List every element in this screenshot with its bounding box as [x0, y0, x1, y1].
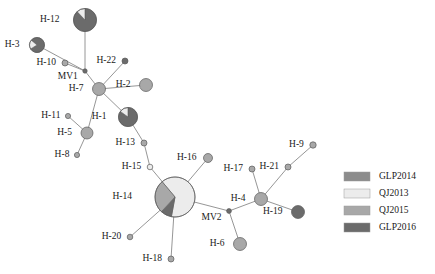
legend-swatch-qj2013 — [344, 189, 370, 198]
haplotype-node[interactable] — [255, 193, 268, 206]
node-disc — [140, 79, 153, 92]
haplotype-network-figure: H-12H-3H-10MV1H-22H-7H-2H-1H-11H-5H-8H-1… — [0, 0, 435, 274]
node-label-mv2: MV2 — [202, 212, 222, 222]
haplotype-node[interactable] — [74, 152, 79, 157]
node-disc — [234, 238, 247, 251]
haplotype-node[interactable] — [155, 177, 195, 217]
node-disc — [292, 206, 305, 219]
legend-swatch-glp2016 — [344, 223, 370, 232]
node-label-h-2: H-2 — [116, 79, 131, 89]
haplotype-node[interactable] — [140, 79, 153, 92]
haplotype-node[interactable] — [141, 140, 147, 146]
node-label-h-15: H-15 — [122, 161, 142, 171]
node-disc — [122, 58, 128, 64]
node-label-h-16: H-16 — [177, 152, 197, 162]
haplotype-node[interactable] — [65, 113, 70, 118]
node-label-h-7: H-7 — [69, 83, 84, 93]
node-disc — [65, 113, 70, 118]
haplotype-node[interactable] — [234, 238, 247, 251]
haplotype-node[interactable] — [122, 58, 128, 64]
haplotype-node[interactable] — [127, 234, 133, 240]
node-disc — [285, 164, 291, 170]
legend-swatch-glp2014 — [344, 172, 370, 181]
haplotype-node[interactable] — [147, 164, 153, 170]
haplotype-node[interactable] — [204, 154, 213, 163]
node-label-h-5: H-5 — [57, 127, 72, 137]
haplotype-node[interactable] — [310, 142, 316, 148]
haplotype-node[interactable] — [81, 127, 93, 139]
network-canvas: H-12H-3H-10MV1H-22H-7H-2H-1H-11H-5H-8H-1… — [0, 0, 435, 274]
legend-label-glp2014: GLP2014 — [379, 171, 416, 181]
node-disc — [249, 166, 255, 172]
network-edge — [144, 143, 150, 167]
node-disc — [74, 152, 79, 157]
edges-group — [37, 20, 313, 259]
node-label-h-8: H-8 — [55, 149, 70, 159]
haplotype-node[interactable] — [62, 60, 68, 66]
node-label-h-13: H-13 — [115, 137, 135, 147]
legend-label-qj2015: QJ2015 — [379, 205, 409, 215]
node-disc — [81, 127, 93, 139]
node-label-h-10: H-10 — [36, 57, 56, 67]
node-disc — [227, 209, 232, 214]
node-label-h-18: H-18 — [142, 253, 162, 263]
node-label-mv1: MV1 — [58, 71, 78, 81]
node-disc — [83, 69, 87, 73]
haplotype-node[interactable] — [30, 38, 45, 53]
node-disc — [141, 140, 147, 146]
node-label-h-14: H-14 — [112, 191, 132, 201]
node-disc — [62, 60, 68, 66]
haplotype-node[interactable] — [168, 256, 174, 262]
node-label-h-4: H-4 — [231, 193, 246, 203]
legend-label-glp2016: GLP2016 — [379, 222, 416, 232]
node-disc — [310, 142, 316, 148]
node-label-h-17: H-17 — [223, 163, 243, 173]
node-label-h-19: H-19 — [263, 206, 283, 216]
haplotype-node[interactable] — [292, 206, 305, 219]
node-label-h-22: H-22 — [96, 55, 116, 65]
node-label-h-20: H-20 — [102, 231, 122, 241]
legend-swatch-qj2015 — [344, 206, 370, 215]
node-disc — [147, 164, 153, 170]
node-label-h-9: H-9 — [289, 139, 304, 149]
node-disc — [127, 234, 133, 240]
node-label-h-3: H-3 — [5, 39, 20, 49]
haplotype-node[interactable] — [93, 83, 106, 96]
node-label-h-1: H-1 — [92, 111, 107, 121]
haplotype-node[interactable] — [74, 9, 97, 32]
haplotype-node[interactable] — [249, 166, 255, 172]
haplotype-node[interactable] — [83, 69, 87, 73]
legend-label-qj2013: QJ2013 — [379, 188, 409, 198]
haplotype-node[interactable] — [227, 209, 232, 214]
node-disc — [168, 256, 174, 262]
node-label-h-11: H-11 — [41, 110, 60, 120]
legend: GLP2014QJ2013QJ2015GLP2016 — [344, 171, 416, 232]
node-label-h-12: H-12 — [40, 14, 60, 24]
haplotype-node[interactable] — [119, 107, 138, 126]
node-disc — [255, 193, 268, 206]
node-label-h-6: H-6 — [210, 238, 225, 248]
haplotype-node[interactable] — [285, 164, 291, 170]
node-label-h-21: H-21 — [259, 161, 279, 171]
node-disc — [204, 154, 213, 163]
node-disc — [93, 83, 106, 96]
